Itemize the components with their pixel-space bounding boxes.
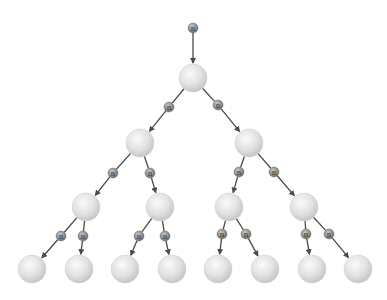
path-line xyxy=(305,221,306,229)
neutron: n xyxy=(188,23,198,33)
arrow-icon xyxy=(166,241,169,254)
neutron: n xyxy=(160,231,170,241)
path-line xyxy=(258,154,271,169)
neutron-label: n xyxy=(191,25,196,33)
arrow-icon xyxy=(95,177,110,195)
path-line xyxy=(116,153,130,169)
arrow-icon xyxy=(42,240,58,258)
arrow-icon xyxy=(131,241,137,256)
neutron-label: n xyxy=(163,233,168,241)
nucleus-sphere xyxy=(158,255,186,283)
nucleus-sphere xyxy=(18,255,46,283)
nucleus-sphere xyxy=(235,129,263,157)
arrow-icon xyxy=(307,239,310,254)
arrow-icon xyxy=(149,111,165,131)
arrow-icon xyxy=(277,176,294,196)
path-line xyxy=(236,219,243,230)
neutron-label: n xyxy=(148,170,153,178)
arrow-icon xyxy=(81,241,83,254)
neutron: n xyxy=(108,168,118,178)
neutron: n xyxy=(145,168,155,178)
neutron: n xyxy=(324,229,334,239)
path-line xyxy=(64,218,77,233)
path-line xyxy=(142,218,152,232)
nuclei-group xyxy=(18,64,372,283)
arrow-icon xyxy=(151,178,155,193)
neutron-label: n xyxy=(111,170,116,178)
neutron-label: n xyxy=(237,169,242,177)
fission-chain-reaction-diagram: nnnnnnnnnnnnnnn xyxy=(0,0,387,300)
neutron: n xyxy=(241,229,251,239)
neutron: n xyxy=(217,229,227,239)
nucleus-sphere xyxy=(72,193,100,221)
nucleus-sphere xyxy=(146,193,174,221)
nucleus-sphere xyxy=(111,255,139,283)
neutron: n xyxy=(269,167,279,177)
arrow-icon xyxy=(220,239,222,254)
arrow-icon xyxy=(221,109,239,132)
path-line xyxy=(172,89,184,103)
nucleus-sphere xyxy=(290,193,318,221)
nucleus-sphere xyxy=(126,129,154,157)
neutron: n xyxy=(56,231,66,241)
neutron: n xyxy=(213,100,223,110)
arrow-icon xyxy=(233,177,238,193)
nucleus-sphere xyxy=(298,255,326,283)
neutron: n xyxy=(134,231,144,241)
nucleus-sphere xyxy=(344,255,372,283)
nucleus-sphere xyxy=(215,193,243,221)
path-line xyxy=(144,156,148,168)
arrow-icon xyxy=(332,238,348,258)
path-line xyxy=(203,88,215,101)
neutron-label: n xyxy=(59,233,64,241)
neutron: n xyxy=(301,229,311,239)
neutron: n xyxy=(234,167,244,177)
nucleus-sphere xyxy=(179,64,207,92)
neutron-label: n xyxy=(220,231,225,239)
path-line xyxy=(314,217,326,230)
neutron-label: n xyxy=(304,231,309,239)
neutron-label: n xyxy=(327,231,332,239)
path-line xyxy=(162,221,164,231)
neutron: n xyxy=(164,102,174,112)
arrow-icon xyxy=(248,238,257,255)
neutron: n xyxy=(78,231,88,241)
neutron-label: n xyxy=(81,233,86,241)
neutron-label: n xyxy=(137,233,142,241)
path-line xyxy=(84,221,85,231)
nucleus-sphere xyxy=(204,255,232,283)
neutron-label: n xyxy=(272,169,277,177)
nucleus-sphere xyxy=(65,255,93,283)
neutron-label: n xyxy=(216,102,221,110)
neutron-label: n xyxy=(244,231,249,239)
nucleus-sphere xyxy=(251,255,279,283)
path-line xyxy=(241,156,245,167)
neutron-label: n xyxy=(167,104,172,112)
path-line xyxy=(223,221,225,230)
